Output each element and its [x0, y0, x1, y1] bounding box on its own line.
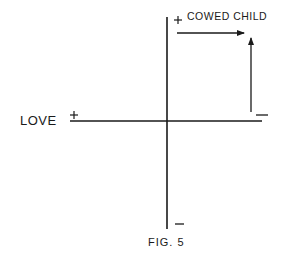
- x-positive-sign: [70, 111, 78, 119]
- diagram-canvas: [0, 0, 305, 266]
- y-positive-sign: [174, 16, 182, 24]
